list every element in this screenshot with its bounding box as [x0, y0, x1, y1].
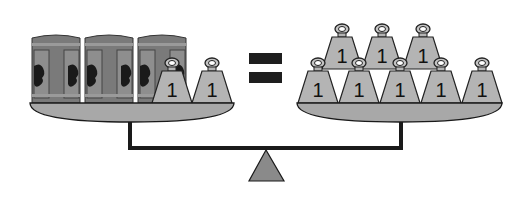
scale-beam — [128, 118, 403, 150]
left-pan — [30, 103, 234, 122]
svg-text:1: 1 — [353, 79, 364, 101]
svg-text:1: 1 — [476, 79, 487, 101]
svg-text:1: 1 — [312, 79, 323, 101]
weight-icon: 1 — [462, 58, 502, 103]
equals-sign — [249, 53, 282, 83]
svg-text:1: 1 — [206, 79, 217, 101]
weight-icon: 1 — [192, 58, 232, 103]
right-pan — [297, 103, 502, 122]
svg-text:1: 1 — [435, 79, 446, 101]
right-pan-top-row: 1 1 1 — [322, 24, 443, 69]
svg-text:1: 1 — [376, 45, 387, 67]
fulcrum-triangle — [249, 150, 284, 181]
can-icon — [32, 35, 80, 103]
can-icon — [85, 35, 133, 103]
svg-text:1: 1 — [336, 45, 347, 67]
svg-text:1: 1 — [394, 79, 405, 101]
svg-text:1: 1 — [166, 79, 177, 101]
svg-text:1: 1 — [417, 45, 428, 67]
balance-scale-diagram: 1 1 1 1 1 1 1 1 1 — [0, 0, 517, 197]
